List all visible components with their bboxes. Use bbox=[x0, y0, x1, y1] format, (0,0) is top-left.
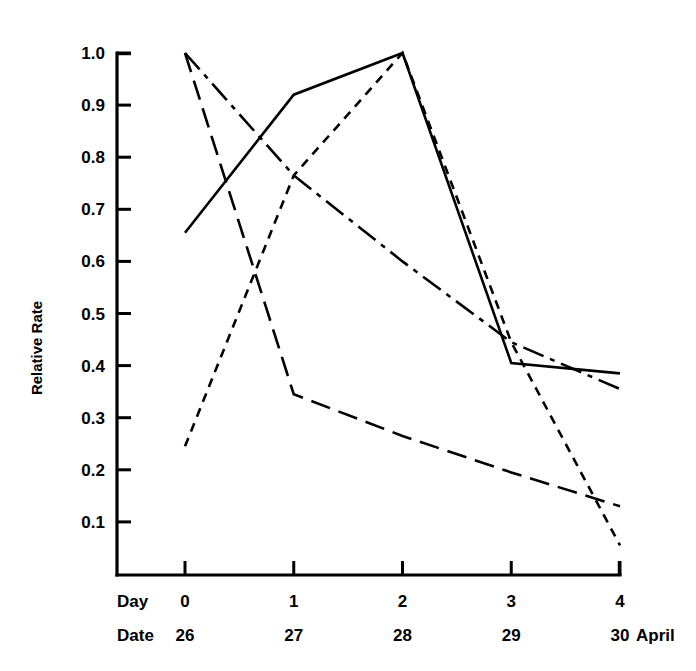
chart-container: 1.00.90.80.70.60.50.40.30.20.1 Day01234D… bbox=[0, 0, 696, 671]
y-axis-ticks bbox=[117, 53, 131, 522]
x-axis-row-header-day: Day bbox=[117, 592, 149, 611]
x-axis-day-label: 2 bbox=[398, 592, 407, 611]
x-axis-unit-suffix: April bbox=[636, 626, 675, 645]
y-tick-label: 0.5 bbox=[81, 305, 105, 324]
x-axis-date-label: 28 bbox=[393, 626, 412, 645]
line-chart: 1.00.90.80.70.60.50.40.30.20.1 Day01234D… bbox=[0, 0, 696, 671]
x-axis-label-rows: Day01234Date2627282930April bbox=[117, 592, 675, 645]
y-tick-label: 0.7 bbox=[81, 200, 105, 219]
y-tick-label: 1.0 bbox=[81, 44, 105, 63]
y-tick-label: 0.2 bbox=[81, 461, 105, 480]
x-axis-day-label: 3 bbox=[507, 592, 516, 611]
x-axis-row-header-date: Date bbox=[117, 626, 154, 645]
y-tick-label: 0.8 bbox=[81, 148, 105, 167]
x-axis-date-label: 29 bbox=[502, 626, 521, 645]
x-axis-ticks bbox=[185, 561, 620, 575]
y-tick-label: 0.4 bbox=[81, 357, 105, 376]
series-solid bbox=[185, 53, 620, 373]
y-tick-label: 0.1 bbox=[81, 513, 105, 532]
y-tick-label: 0.9 bbox=[81, 96, 105, 115]
x-axis-date-label: 27 bbox=[284, 626, 303, 645]
x-axis-day-label: 0 bbox=[180, 592, 189, 611]
x-axis-day-label: 4 bbox=[615, 592, 625, 611]
y-axis-title: Relative Rate bbox=[28, 301, 45, 395]
x-axis-day-label: 1 bbox=[289, 592, 298, 611]
x-axis-date-label: 30 bbox=[611, 626, 630, 645]
x-axis-date-label: 26 bbox=[176, 626, 195, 645]
y-tick-label: 0.6 bbox=[81, 252, 105, 271]
y-tick-label: 0.3 bbox=[81, 409, 105, 428]
y-axis-tick-labels: 1.00.90.80.70.60.50.40.30.20.1 bbox=[81, 44, 105, 532]
data-series-group bbox=[185, 53, 620, 545]
series-long-dash bbox=[185, 53, 620, 506]
series-dash-dot bbox=[185, 53, 620, 389]
